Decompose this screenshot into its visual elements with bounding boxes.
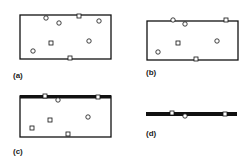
circle-marker xyxy=(171,18,175,22)
circle-marker xyxy=(215,39,219,43)
panel-b-label: (b) xyxy=(146,68,156,77)
panel-a xyxy=(20,14,111,60)
circle-marker xyxy=(156,50,160,54)
square-marker xyxy=(176,41,180,45)
panel-b-boundary xyxy=(147,21,238,60)
circle-marker xyxy=(183,22,187,26)
square-marker xyxy=(224,18,228,22)
circle-marker xyxy=(31,49,35,53)
circle-marker xyxy=(86,115,90,119)
square-marker xyxy=(49,41,53,45)
square-marker xyxy=(77,14,81,18)
square-marker xyxy=(48,118,52,122)
square-marker xyxy=(194,57,198,61)
circle-marker xyxy=(57,21,61,25)
panel-b xyxy=(147,18,238,61)
panel-a-label: (a) xyxy=(13,71,23,80)
circle-marker xyxy=(56,98,60,102)
square-marker xyxy=(43,94,47,98)
square-marker xyxy=(170,111,174,115)
square-marker xyxy=(68,56,72,60)
circle-marker xyxy=(97,19,101,23)
circle-marker xyxy=(44,16,48,20)
square-marker xyxy=(96,95,100,99)
diagram-canvas xyxy=(0,0,249,162)
panel-d-label: (d) xyxy=(146,129,156,138)
panel-d xyxy=(146,111,237,118)
circle-marker xyxy=(87,39,91,43)
square-marker xyxy=(30,126,34,130)
panel-c-label: (c) xyxy=(13,147,23,156)
circle-marker xyxy=(183,114,187,118)
square-marker xyxy=(223,112,227,116)
panel-c xyxy=(20,94,111,137)
square-marker xyxy=(66,132,70,136)
panel-c-boundary xyxy=(20,96,111,137)
